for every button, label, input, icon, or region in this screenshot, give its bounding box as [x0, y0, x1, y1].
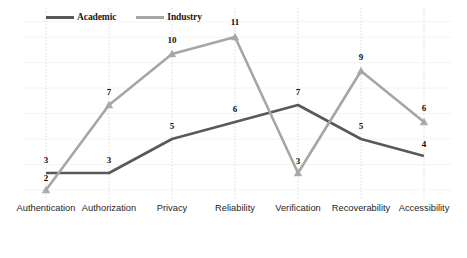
x-tick-label-authorization: Authorization	[82, 203, 136, 213]
data-label: 3	[44, 155, 49, 165]
x-tick-label-accessibility: Accessibility	[399, 203, 450, 213]
x-tick-label-recoverability: Recoverability	[332, 203, 390, 213]
data-label: 5	[170, 121, 175, 131]
data-label: 7	[296, 87, 301, 97]
x-tick-label-authentication: Authentication	[17, 203, 76, 213]
x-tick-label-reliability: Reliability	[215, 203, 255, 213]
x-tick-label-privacy: Privacy	[157, 203, 187, 213]
legend-label-academic: Academic	[77, 12, 116, 22]
legend-label-industry: Industry	[167, 12, 202, 22]
data-label: 4	[422, 139, 427, 149]
data-label: 7	[107, 87, 112, 97]
x-tick-label-verification: Verification	[275, 203, 320, 213]
data-label: 3	[296, 156, 301, 166]
data-label: 6	[233, 104, 238, 114]
figure-caption	[0, 247, 467, 258]
gridlines-group	[24, 22, 452, 190]
line-chart: Academic Industry 3273105116739564 Authe…	[0, 0, 467, 258]
data-label: 10	[168, 35, 177, 45]
data-label: 3	[107, 155, 112, 165]
data-label: 5	[359, 121, 364, 131]
data-label: 11	[231, 17, 240, 27]
line-swatch-icon-industry	[136, 16, 164, 19]
data-label: 9	[359, 52, 364, 62]
legend-item-industry: Industry	[136, 12, 202, 22]
data-label: 2	[44, 173, 49, 183]
data-label: 6	[422, 103, 427, 113]
line-swatch-icon-academic	[46, 16, 74, 19]
chart-legend: Academic Industry	[46, 12, 202, 22]
x-axis-tick-labels: AuthenticationAuthorizationPrivacyReliab…	[0, 203, 467, 221]
legend-item-academic: Academic	[46, 12, 116, 22]
